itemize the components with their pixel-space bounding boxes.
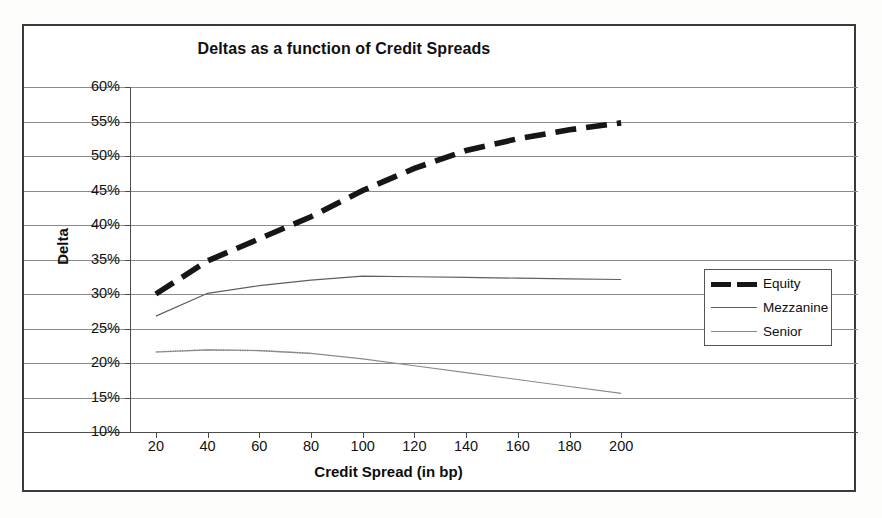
legend-item-senior[interactable]: Senior (705, 320, 831, 345)
series-equity (156, 123, 621, 294)
legend-item-mezzanine[interactable]: Mezzanine (705, 296, 831, 321)
y-axis-title: Delta (54, 187, 71, 307)
legend-item-equity[interactable]: Equity (705, 272, 831, 297)
chart-legend: Equity Mezzanine Senior (704, 269, 832, 346)
legend-swatch-mezzanine-icon (711, 307, 757, 308)
x-axis-title: Credit Spread (in bp) (130, 463, 647, 480)
legend-label-mezzanine: Mezzanine (763, 300, 828, 315)
legend-swatch-senior-icon (711, 331, 757, 332)
legend-swatch-equity-icon (711, 282, 757, 287)
legend-label-senior: Senior (763, 324, 802, 339)
legend-label-equity: Equity (763, 276, 801, 291)
mezzanine-line (156, 276, 621, 316)
equity-line (156, 123, 621, 294)
series-mezzanine (156, 276, 621, 316)
senior-line (156, 350, 621, 393)
series-senior (156, 350, 621, 393)
chart-series-layer (24, 26, 858, 494)
plot-wrapper: 60% 55% 50% 45% 40% 35% 30% 25% 20% 15% … (24, 26, 858, 494)
chart-frame: Deltas as a function of Credit Spreads 6… (22, 24, 856, 492)
